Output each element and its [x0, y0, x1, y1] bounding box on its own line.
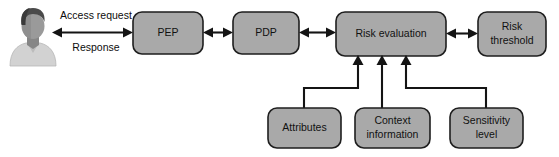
node-sensitivity-level-label-line1: Sensitivity: [463, 114, 511, 126]
diagram-canvas: Access request Response PEP PDP Risk eva: [0, 0, 559, 157]
node-risk-threshold-label-line1: Risk: [502, 20, 523, 32]
node-risk-threshold[interactable]: Risk threshold: [478, 12, 546, 56]
connector-pep-pdp: [203, 28, 233, 38]
connector-attributes-risk-evaluation: [304, 55, 364, 108]
node-sensitivity-level[interactable]: Sensitivity level: [450, 108, 523, 148]
edge-label-response: Response: [72, 41, 119, 53]
user-person-icon: [10, 8, 56, 66]
node-attributes-label: Attributes: [282, 121, 326, 133]
node-context-information-label-line2: information: [367, 128, 419, 140]
node-context-information[interactable]: Context information: [355, 108, 430, 148]
node-pdp-label: PDP: [255, 26, 277, 38]
node-risk-evaluation-label: Risk evaluation: [355, 27, 426, 39]
connector-risk-evaluation-risk-threshold: [446, 29, 478, 39]
node-sensitivity-level-label-line2: level: [476, 128, 498, 140]
node-attributes[interactable]: Attributes: [268, 108, 341, 148]
node-pep[interactable]: PEP: [133, 12, 203, 54]
edge-label-access-request: Access request: [60, 9, 132, 21]
node-pep-label: PEP: [157, 26, 178, 38]
node-context-information-label-line1: Context: [374, 114, 410, 126]
connector-context-information-risk-evaluation: [377, 55, 388, 108]
node-risk-threshold-label-line2: threshold: [490, 34, 533, 46]
connector-sensitivity-level-risk-evaluation: [401, 55, 487, 108]
node-pdp[interactable]: PDP: [233, 12, 299, 54]
diagram-svg: Access request Response PEP PDP Risk eva: [0, 0, 559, 157]
connector-pdp-risk-evaluation: [299, 28, 336, 38]
node-risk-evaluation[interactable]: Risk evaluation: [336, 12, 446, 56]
connector-actor-pep: [52, 28, 133, 38]
